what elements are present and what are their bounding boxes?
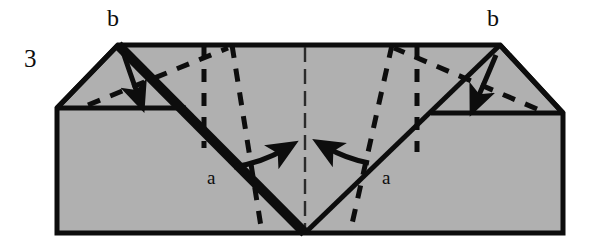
label-a-left: a <box>207 168 215 187</box>
beveled-block-diagram-svg <box>0 0 594 249</box>
label-b-left: b <box>107 6 119 30</box>
figure-root: 3 b b a a <box>0 0 594 249</box>
figure-index-label: 3 <box>24 46 37 71</box>
label-b-right: b <box>487 6 499 30</box>
label-a-right: a <box>382 168 390 187</box>
